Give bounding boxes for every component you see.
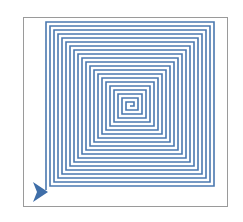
- drawing-canvas: [0, 0, 243, 222]
- square-spiral-path: [46, 22, 214, 190]
